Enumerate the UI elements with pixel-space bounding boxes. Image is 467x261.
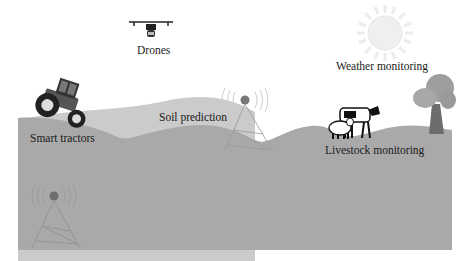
scene-graphics <box>0 0 467 261</box>
tree-icon <box>413 74 456 134</box>
livestock-monitoring-label: Livestock monitoring <box>325 145 424 157</box>
weather-monitoring-label: Weather monitoring <box>336 61 428 73</box>
soil-prediction-label: Soil prediction <box>159 112 227 124</box>
smart-farming-diagram: Drones Weather monitoring Soil predictio… <box>0 0 467 261</box>
drone-icon <box>129 22 173 37</box>
sun-icon <box>357 5 413 61</box>
drones-label: Drones <box>137 45 170 57</box>
smart-tractors-label: Smart tractors <box>30 133 95 145</box>
